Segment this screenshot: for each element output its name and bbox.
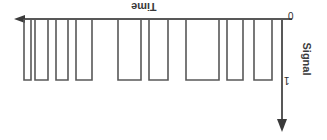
signal-tick-label-one: 1 <box>284 75 290 86</box>
signal-axis-label: Signal <box>301 42 313 75</box>
pulse-2 <box>35 19 48 80</box>
pulse-train-group <box>24 19 272 80</box>
signal-tick-label-zero: 0 <box>288 10 294 21</box>
pulse-6 <box>149 19 168 80</box>
pulse-4 <box>76 19 92 80</box>
pulse-7 <box>186 19 219 80</box>
pulse-9 <box>254 19 272 80</box>
signal-axis-arrowhead-icon <box>277 119 287 132</box>
waveform-svg <box>0 0 327 140</box>
pulse-3 <box>56 19 68 80</box>
pulse-1 <box>24 19 31 80</box>
pulse-8 <box>227 19 243 80</box>
time-axis-label: Time <box>131 1 156 13</box>
signal-diagram: Time Signal 0 1 <box>0 0 327 140</box>
pulse-5 <box>118 19 141 80</box>
